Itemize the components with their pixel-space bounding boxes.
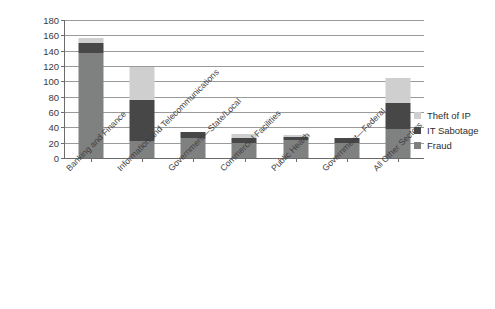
x-tick-mark-3 (245, 158, 246, 162)
x-tick-mark-6 (398, 158, 399, 162)
y-tick-label-0: 0 (54, 153, 59, 164)
bar-segment-theft-of-ip[interactable] (129, 67, 154, 100)
y-tick-label-140: 140 (43, 45, 59, 56)
y-tick-mark-0 (61, 158, 65, 159)
legend-swatch-icon (414, 112, 421, 119)
y-tick-label-60: 60 (48, 107, 59, 118)
legend-label: Fraud (427, 140, 452, 151)
bar-slot (65, 20, 116, 158)
legend-swatch-icon (414, 127, 421, 134)
bar-slot (219, 20, 270, 158)
bar-segment-theft-of-ip[interactable] (386, 78, 411, 103)
x-tick-mark-5 (347, 158, 348, 162)
x-tick-mark-2 (193, 158, 194, 162)
legend-item-theft-of-ip[interactable]: Theft of IP (414, 108, 494, 123)
y-tick-label-120: 120 (43, 61, 59, 72)
chart-screenshot: 020406080100120140160180 Banking and Fin… (0, 0, 495, 309)
x-tick-mark-0 (91, 158, 92, 162)
bar-segment-it-sabotage[interactable] (386, 103, 411, 129)
legend-swatch-icon (414, 142, 421, 149)
legend-item-fraud[interactable]: Fraud (414, 138, 494, 153)
y-tick-label-20: 20 (48, 137, 59, 148)
x-tick-mark-4 (296, 158, 297, 162)
y-tick-label-40: 40 (48, 122, 59, 133)
y-tick-label-80: 80 (48, 91, 59, 102)
legend-label: Theft of IP (427, 110, 471, 121)
y-tick-label-180: 180 (43, 15, 59, 26)
bar-segment-it-sabotage[interactable] (78, 43, 103, 53)
y-tick-label-100: 100 (43, 76, 59, 87)
chart-legend: Theft of IPIT SabotageFraud (414, 108, 494, 153)
y-tick-label-160: 160 (43, 30, 59, 41)
x-tick-mark-1 (142, 158, 143, 162)
legend-label: IT Sabotage (427, 125, 479, 136)
legend-item-it-sabotage[interactable]: IT Sabotage (414, 123, 494, 138)
